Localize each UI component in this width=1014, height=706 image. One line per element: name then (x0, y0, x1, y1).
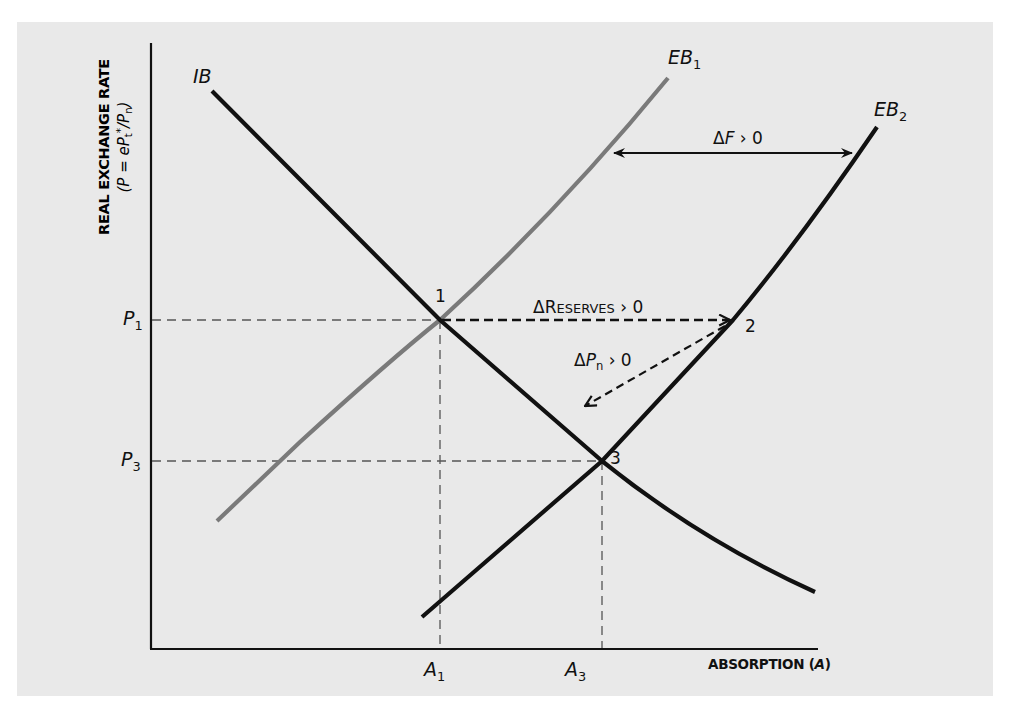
x-axis-title: ABSORPTION ( (708, 656, 815, 672)
eb2-label: EB2 (874, 100, 907, 123)
y-axis-formula: (P = ePt*/Pn) (114, 32, 134, 262)
df-delta: Δ (713, 128, 725, 148)
dr-rest: ESERVES (556, 301, 614, 316)
point-3-label: 3 (610, 450, 621, 467)
delta-f-label: ΔF › 0 (713, 130, 763, 147)
ib-curve (212, 91, 815, 592)
a1-main: A (424, 658, 437, 680)
dpn-delta: Δ (574, 350, 586, 370)
a1-sub: 1 (437, 669, 445, 684)
p1-main: P (123, 307, 134, 329)
x-axis-label: ABSORPTION (A) (708, 658, 831, 672)
dr-gt: › 0 (615, 297, 643, 317)
x-axis-close: ) (825, 656, 831, 672)
a3-sub: 3 (578, 669, 586, 684)
formula-pt: P (115, 137, 133, 146)
dr-r: R (545, 297, 557, 317)
p3-sub: 3 (132, 459, 140, 474)
formula-slash: / (115, 123, 133, 128)
dpn-var: P (586, 350, 596, 370)
p3-tick-label: P3 (121, 450, 141, 473)
formula-pn: P (115, 114, 133, 123)
formula-open: ( (115, 187, 133, 193)
df-var: F (725, 128, 735, 148)
delta-pn-label: ΔPn › 0 (574, 352, 632, 373)
p1-sub: 1 (134, 318, 142, 333)
a3-main: A (565, 658, 578, 680)
formula-n-sub: n (123, 107, 134, 113)
point-1-label: 1 (435, 288, 446, 305)
formula-t-sub: t (123, 133, 134, 137)
y-axis-label: REAL EXCHANGE RATE (P = ePt*/Pn) (96, 32, 140, 262)
eb2-sub: 2 (899, 109, 907, 124)
point-2-label: 2 (745, 318, 756, 335)
dr-delta: Δ (533, 297, 545, 317)
chart-svg (0, 0, 1014, 706)
a1-tick-label: A1 (424, 660, 445, 683)
ib-label: IB (193, 67, 212, 86)
p3-main: P (121, 448, 132, 470)
a3-tick-label: A3 (565, 660, 586, 683)
eb2-curve (422, 127, 877, 617)
delta-reserves-label: ΔRESERVES › 0 (533, 299, 643, 316)
df-rest: › 0 (734, 128, 762, 148)
eb1-label: EB1 (668, 48, 701, 71)
eb2-main: EB (874, 98, 899, 120)
eb1-main: EB (668, 46, 693, 68)
x-axis-var: A (815, 656, 825, 672)
formula-p: P (115, 178, 133, 187)
formula-close: ) (115, 102, 133, 108)
eb1-sub: 1 (693, 57, 701, 72)
formula-eq: = e (115, 146, 133, 177)
dpn-rest: › 0 (603, 350, 631, 370)
y-axis-title: REAL EXCHANGE RATE (96, 32, 112, 262)
formula-star: * (114, 128, 126, 133)
p1-tick-label: P1 (123, 309, 143, 332)
